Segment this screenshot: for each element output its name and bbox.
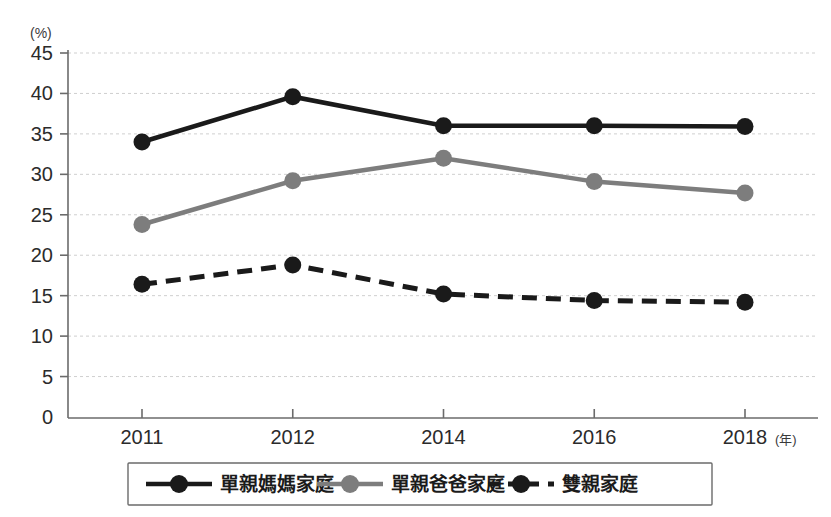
y-axis-unit-label: (%) — [30, 25, 52, 41]
y-axis — [60, 50, 68, 418]
x-axis-unit-label: (年) — [775, 432, 797, 447]
y-tick-label: 20 — [31, 244, 53, 266]
y-tick-label: 45 — [31, 42, 53, 64]
data-point — [134, 133, 151, 150]
y-tick-label: 30 — [31, 163, 53, 185]
data-point — [586, 173, 603, 190]
data-point — [134, 216, 151, 233]
series-3 — [134, 256, 754, 310]
x-tick-label: 2018 — [723, 426, 768, 448]
x-tick-label: 2012 — [271, 426, 316, 448]
y-tick-marks — [60, 53, 68, 377]
data-point — [737, 294, 754, 311]
x-axis — [68, 409, 818, 418]
data-point — [284, 256, 301, 273]
data-point — [737, 118, 754, 135]
data-point — [586, 117, 603, 134]
y-tick-label: 0 — [42, 406, 53, 428]
chart-legend: 單親媽媽家庭單親爸爸家庭雙親家庭 — [128, 463, 712, 505]
y-tick-label: 10 — [31, 325, 53, 347]
data-point — [284, 88, 301, 105]
legend-label: 單親爸爸家庭 — [391, 473, 505, 495]
legend-label: 單親媽媽家庭 — [220, 473, 334, 495]
y-tick-label: 5 — [42, 366, 53, 388]
y-tick-label: 35 — [31, 123, 53, 145]
data-point — [134, 276, 151, 293]
data-point — [586, 292, 603, 309]
data-point — [284, 172, 301, 189]
y-tick-label: 15 — [31, 285, 53, 307]
legend-label: 雙親家庭 — [562, 473, 638, 495]
data-point — [435, 286, 452, 303]
series-1 — [134, 88, 754, 150]
x-tick-marks — [142, 409, 745, 418]
chart-plot-area: 051015202530354045 20112012201420162018 … — [0, 0, 831, 517]
x-tick-label: 2016 — [572, 426, 617, 448]
data-point — [435, 150, 452, 167]
x-tick-label: 2014 — [421, 426, 466, 448]
legend-marker-swatch — [512, 475, 530, 493]
y-tick-label: 40 — [31, 82, 53, 104]
y-tick-label: 25 — [31, 204, 53, 226]
x-tick-labels: 20112012201420162018 — [120, 426, 767, 448]
line-chart: 051015202530354045 20112012201420162018 … — [0, 0, 831, 517]
y-tick-labels: 051015202530354045 — [31, 42, 53, 428]
x-tick-label: 2011 — [120, 426, 163, 448]
legend-items: 單親媽媽家庭單親爸爸家庭雙親家庭 — [146, 473, 638, 495]
data-point — [435, 117, 452, 134]
legend-marker-swatch — [170, 475, 188, 493]
data-series-layer — [134, 88, 754, 310]
series-2 — [134, 150, 754, 233]
data-point — [737, 184, 754, 201]
legend-marker-swatch — [341, 475, 359, 493]
